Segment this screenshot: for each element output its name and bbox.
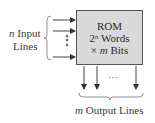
rom-title: ROM — [76, 20, 143, 32]
output-lines-label: m Output Lines — [75, 104, 143, 116]
input-lines-label: n Input — [9, 27, 40, 39]
output-brace — [79, 93, 143, 100]
rom-words-label: 2n Words — [76, 32, 143, 44]
input-ellipsis: ⋮ — [61, 34, 73, 46]
input-brace — [44, 16, 51, 60]
rom-bits-label: × m Bits — [76, 44, 143, 56]
input-lines-label-2: Lines — [13, 40, 37, 52]
output-ellipsis: ··· — [108, 72, 118, 84]
